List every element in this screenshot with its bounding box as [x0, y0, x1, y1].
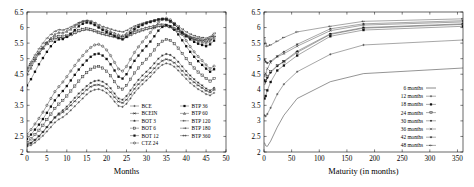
data-point-plus — [329, 53, 331, 55]
data-point-star — [189, 74, 191, 76]
y-axis-tick-label: 2 — [257, 149, 261, 157]
legend-item-label: BTP 180 — [192, 125, 211, 131]
data-point-star — [129, 89, 131, 91]
legend-item[interactable]: 18 months — [401, 101, 436, 107]
data-point-star — [201, 84, 203, 86]
y-axis-tick-label: 2.5 — [15, 133, 24, 141]
legend-item-label: 48 months — [401, 142, 423, 148]
data-point-cross-line — [117, 100, 121, 102]
legend-item[interactable]: BTP 36 — [180, 103, 208, 109]
data-point-square-filled — [269, 81, 271, 83]
data-point-cross-line — [153, 67, 157, 69]
legend-item[interactable]: BCE — [130, 103, 152, 109]
legend-item[interactable]: BTP 60 — [180, 110, 208, 116]
data-point-star — [362, 23, 364, 25]
data-point-square-filled — [137, 54, 139, 56]
series-42-months — [263, 20, 464, 65]
data-point-square-filled — [157, 30, 159, 32]
data-point-square-filled — [38, 63, 40, 65]
legend-item-label: BOT 12 — [142, 133, 159, 139]
data-point-star — [78, 92, 80, 94]
legend-item[interactable]: 48 months — [401, 142, 436, 148]
legend-item[interactable]: BCEIN — [130, 110, 158, 116]
legend-item[interactable]: BTP 120 — [180, 118, 211, 124]
y-axis-tick-label: 4 — [20, 86, 24, 94]
x-axis-tick-label: 200 — [369, 155, 380, 163]
legend-item[interactable]: 42 months — [401, 134, 436, 140]
data-point-arrow-left — [200, 38, 203, 39]
legend-item-label: 12 months — [401, 93, 423, 99]
data-point-square-filled — [94, 53, 96, 55]
y-axis-tick-label: 2.5 — [252, 133, 261, 141]
data-point-arrow-left — [212, 34, 215, 35]
data-point-arrow — [329, 26, 332, 27]
data-point-star — [62, 109, 64, 111]
series-line — [265, 68, 463, 146]
y-axis-tick-label: 4 — [257, 86, 261, 94]
data-point-arrow-right — [205, 37, 208, 38]
legend-item[interactable]: BOT 6 — [130, 125, 156, 131]
data-point-arrow-double — [85, 29, 89, 30]
data-point-square-filled — [101, 54, 103, 56]
data-point-square-filled — [430, 103, 432, 105]
data-point-star — [90, 82, 92, 84]
data-point-arrow-left — [145, 27, 148, 28]
data-point-arrow-double — [153, 27, 157, 28]
data-point-cross-line — [164, 58, 168, 60]
legend-item-label: BTP 120 — [192, 118, 211, 124]
data-point-arrow-double — [57, 37, 61, 38]
legend-item[interactable]: 36 months — [401, 126, 436, 132]
y-axis-tick-label: 6 — [257, 24, 261, 32]
legend-item-label: BOT 6 — [142, 125, 157, 131]
legend-item[interactable]: 12 months — [401, 93, 436, 99]
data-point-square-filled — [201, 44, 203, 46]
legend-item[interactable]: 30 months — [401, 118, 436, 124]
data-point-arrow-right — [61, 29, 64, 30]
data-point-square-filled — [90, 56, 92, 58]
data-point-cross-line — [129, 93, 133, 95]
data-point-star — [157, 58, 159, 60]
data-point-square-filled — [26, 84, 28, 86]
data-point-star — [74, 97, 76, 99]
legend-item[interactable]: CTZ 24 — [130, 140, 158, 146]
data-point-arrow-right — [50, 34, 53, 35]
data-point-plus — [97, 88, 99, 90]
legend-item[interactable]: 6 months — [403, 85, 436, 91]
data-point-plus — [133, 105, 135, 107]
data-point-cross-line — [184, 74, 188, 76]
data-point-square-filled — [201, 64, 203, 66]
data-point-cross-line — [133, 88, 137, 90]
data-point-square-filled — [58, 38, 60, 40]
legend: 6 months12 months18 months24 months30 mo… — [401, 85, 436, 148]
data-point-square-filled — [34, 128, 36, 130]
legend-item[interactable]: BOT 12 — [130, 133, 159, 139]
data-point-square-filled — [296, 54, 298, 56]
data-point-cross-line — [141, 79, 145, 81]
data-point-arrow-double — [45, 44, 49, 45]
data-point-square-filled — [141, 49, 143, 51]
data-point-square-filled — [197, 43, 199, 45]
data-point-square-filled — [149, 40, 151, 42]
data-point-diamond-filled — [430, 120, 432, 122]
legend-item[interactable]: 24 months — [401, 110, 436, 116]
data-point-square-filled — [109, 63, 111, 65]
legend-item-label: BOT 3 — [142, 118, 157, 124]
legend-item[interactable]: BTP 360 — [180, 133, 211, 139]
legend-item-label: BTP 60 — [192, 110, 208, 116]
data-point-arrow-left — [81, 28, 84, 29]
data-point-star — [205, 87, 207, 89]
data-point-square-filled — [54, 99, 56, 101]
legend-item[interactable]: BOT 3 — [130, 118, 156, 124]
data-point-square-filled — [30, 78, 32, 80]
x-axis-tick-label: 15 — [83, 155, 91, 163]
data-point-arrow-left — [57, 35, 60, 36]
data-point-star — [42, 131, 44, 133]
x-axis-tick-label: 5 — [45, 155, 49, 163]
data-point-star — [197, 81, 199, 83]
data-point-cross — [266, 67, 268, 69]
x-axis-tick-label: 0 — [25, 155, 29, 163]
series-group — [263, 18, 465, 146]
data-point-star — [133, 120, 135, 122]
legend-item-label: BCEIN — [142, 110, 158, 116]
legend-item[interactable]: BTP 180 — [180, 125, 211, 131]
